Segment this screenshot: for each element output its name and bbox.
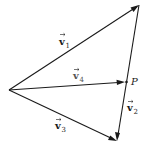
arrowhead-icon — [108, 136, 117, 142]
arrowhead-icon — [115, 132, 120, 141]
arrowhead-icon — [117, 80, 126, 85]
svg-text:2: 2 — [134, 108, 138, 116]
vector-v2 — [115, 5, 139, 141]
svg-text:4: 4 — [80, 76, 85, 84]
label-v4: v 4 — [72, 68, 85, 83]
label-p: P — [130, 76, 138, 87]
vector-v4 — [9, 80, 125, 90]
label-v2: v 2 — [126, 100, 138, 115]
svg-text:3: 3 — [62, 126, 66, 134]
point-p — [125, 81, 128, 84]
label-v3: v 3 — [54, 118, 66, 133]
svg-text:1: 1 — [66, 42, 70, 50]
vector-diagram: v 1 v 4 P v 2 v 3 — [0, 0, 147, 157]
label-v1: v 1 — [58, 33, 70, 49]
